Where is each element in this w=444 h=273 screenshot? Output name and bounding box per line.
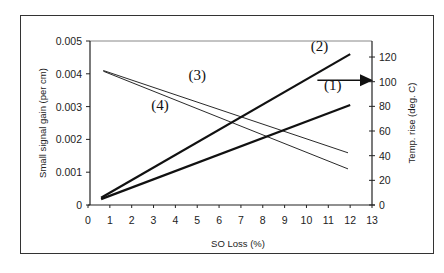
y-tick-label: 0.003	[56, 101, 82, 113]
arrow-right-icon	[360, 74, 373, 86]
x-tick-label: 4	[172, 214, 178, 226]
x-tick-label: 10	[301, 214, 313, 226]
y-tick-label: 0.001	[56, 166, 82, 178]
y-tick-label: 0.005	[56, 35, 82, 47]
x-tick-label: 2	[129, 214, 135, 226]
x-tick-label: 5	[194, 214, 200, 226]
x-axis-title: SO Loss (%)	[211, 238, 265, 249]
y2-tick-label: 0	[379, 199, 385, 211]
x-tick-label: 8	[260, 214, 266, 226]
y2-axis-title: Temp. rise (deg. C)	[406, 83, 417, 164]
series-label: (2)	[311, 38, 329, 55]
chart: 01234567891011121300.0010.0020.0030.0040…	[0, 0, 444, 273]
x-tick-label: 6	[216, 214, 222, 226]
y2-tick-label: 40	[379, 150, 391, 162]
x-tick-label: 13	[366, 214, 378, 226]
series-line-3	[103, 71, 348, 153]
y-tick-label: 0.002	[56, 133, 82, 145]
x-tick-label: 9	[282, 214, 288, 226]
y-tick-label: 0.004	[56, 68, 82, 80]
y2-tick-label: 20	[379, 174, 391, 186]
series-line-1	[101, 105, 350, 199]
x-tick-label: 3	[151, 214, 157, 226]
y2-tick-label: 120	[379, 51, 397, 63]
series-label: (3)	[188, 67, 206, 84]
x-tick-label: 0	[85, 214, 91, 226]
x-tick-label: 1	[107, 214, 113, 226]
x-tick-label: 11	[323, 214, 334, 226]
series-line-2	[101, 54, 350, 198]
series-label: (4)	[151, 97, 169, 114]
y2-tick-label: 100	[379, 76, 397, 88]
x-tick-label: 7	[238, 214, 244, 226]
y2-tick-label: 80	[379, 100, 391, 112]
x-tick-label: 12	[344, 214, 356, 226]
y2-tick-label: 60	[379, 125, 391, 137]
y-tick-label: 0	[76, 199, 82, 211]
y-axis-title: Small signal gain (per cm)	[37, 68, 48, 178]
